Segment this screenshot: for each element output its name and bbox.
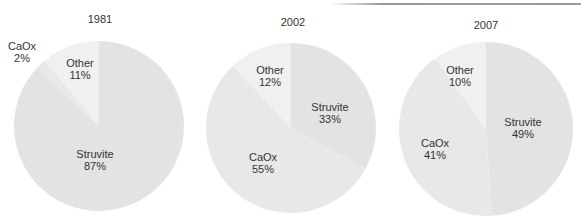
slice-label: Other [446,64,474,76]
slice-value: 10% [449,76,471,88]
slice-label: CaOx [249,151,278,163]
pie-2007: 2007 Other 10% Struvite 49% CaOx 41% [399,19,573,216]
slice-label: CaOx [421,137,450,149]
slice-value: 87% [84,160,106,172]
slice-value: 33% [319,113,341,125]
slice-value: 12% [259,76,281,88]
pie-title: 2002 [281,16,305,28]
slice-value: 11% [69,69,90,81]
slice-label: Other [66,57,94,69]
slice-value: 41% [424,149,446,161]
slice-value: 2% [14,52,30,64]
pie-title: 1981 [88,13,112,25]
slice-label: CaOx [8,40,37,52]
pie-title: 2007 [474,19,498,31]
slice-label: Other [256,64,284,76]
pie-charts: 1981 CaOx 2% Other 11% Struvite 87% 2002… [0,0,581,218]
pie-1981: 1981 CaOx 2% Other 11% Struvite 87% [8,13,184,211]
slice-label: Struvite [311,101,348,113]
slice-value: 55% [252,163,274,175]
slice-label: Struvite [504,116,541,128]
slice-value: 49% [512,128,534,140]
pie-2002: 2002 Other 12% Struvite 33% CaOx 55% [206,16,376,213]
slice-label: Struvite [76,148,113,160]
